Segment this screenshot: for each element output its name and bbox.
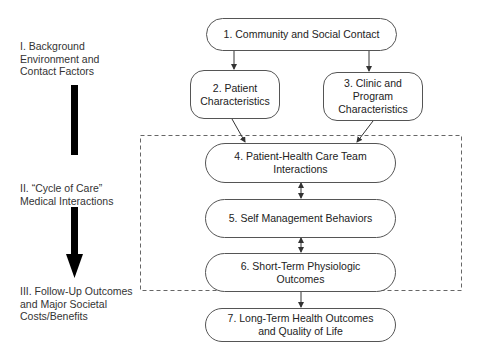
node-short-term-physiologic-outcomes: 6. Short-Term Physiologic Outcomes <box>205 253 396 292</box>
node-clinic-program-characteristics: 3. Clinic and Program Characteristics <box>323 72 423 121</box>
node-self-management-behaviors: 5. Self Management Behaviors <box>205 199 396 238</box>
node-long-term-health-outcomes: 7. Long-Term Health Outcomes and Quality… <box>205 308 396 342</box>
stage-label-follow-up: III. Follow-Up Outcomes and Major Societ… <box>20 285 133 323</box>
node-community-social-contact: 1. Community and Social Contact <box>206 18 397 51</box>
stage-label-cycle-of-care: II. “Cycle of Care” Medical Interactions <box>20 182 113 207</box>
node-patient-characteristics: 2. Patient Characteristics <box>190 70 280 119</box>
stage-label-background: I. Background Environment and Contact Fa… <box>20 40 99 78</box>
care-model-diagram: I. Background Environment and Contact Fa… <box>0 0 479 359</box>
node-patient-care-team-interactions: 4. Patient-Health Care Team Interactions <box>205 143 396 183</box>
